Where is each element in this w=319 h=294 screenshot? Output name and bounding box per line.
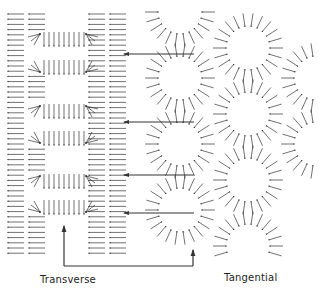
vector-mark <box>34 106 40 117</box>
vector-mark <box>146 68 159 72</box>
vector-mark <box>189 46 194 58</box>
vector-mark <box>234 68 239 80</box>
vector-mark <box>146 84 159 88</box>
transverse-vector-field <box>8 14 126 253</box>
vector-mark <box>262 197 271 207</box>
vector-mark <box>175 34 177 47</box>
vector-mark <box>34 201 40 212</box>
vector-mark <box>234 134 239 146</box>
vector-mark <box>175 232 177 245</box>
vector-mark <box>269 54 282 58</box>
vector-mark <box>257 68 262 80</box>
vector-mark <box>86 34 92 45</box>
vector-mark <box>189 164 194 176</box>
vector-mark <box>257 214 262 226</box>
vector-mark <box>146 200 159 204</box>
vector-mark <box>199 59 210 66</box>
vector-mark <box>311 43 313 56</box>
vector-mark <box>287 156 298 163</box>
vector-mark <box>293 52 302 62</box>
vector-mark <box>219 29 230 36</box>
vector-mark <box>189 98 194 110</box>
vector-mark <box>287 90 298 97</box>
vector-mark <box>201 18 214 22</box>
vector-mark <box>234 16 239 28</box>
vector-mark <box>157 227 166 237</box>
vector-mark <box>166 178 171 190</box>
tangential-label: Tangential <box>224 272 277 283</box>
vector-mark <box>151 191 162 198</box>
vector-mark <box>287 125 298 132</box>
vector-mark <box>257 16 262 28</box>
vector-mark <box>146 150 159 154</box>
vector-mark <box>157 52 166 62</box>
vector-mark <box>151 59 162 66</box>
vector-mark <box>225 197 234 207</box>
vector-mark <box>166 32 171 44</box>
vector-mark <box>269 170 282 174</box>
vector-mark <box>257 82 262 94</box>
vector-mark <box>282 134 295 138</box>
vector-mark <box>157 95 166 105</box>
vector-mark <box>146 18 159 22</box>
vector-mark <box>183 109 185 122</box>
vector-mark <box>262 154 271 164</box>
vector-mark <box>269 120 282 124</box>
vector-mark <box>214 186 227 190</box>
vector-mark <box>34 176 40 187</box>
correspondence-arrows <box>124 54 194 213</box>
vector-mark <box>234 200 239 212</box>
vector-mark <box>243 13 245 26</box>
vector-mark <box>311 109 313 122</box>
vector-mark <box>269 38 282 42</box>
vector-mark <box>282 150 295 154</box>
vector-mark <box>234 82 239 94</box>
tangential-vector-field <box>145 12 313 256</box>
vector-mark <box>151 90 162 97</box>
vector-mark <box>267 29 278 36</box>
vector-mark <box>214 54 227 58</box>
vector-mark <box>251 211 253 224</box>
vector-mark <box>214 104 227 108</box>
vector-mark <box>34 132 40 143</box>
vector-mark <box>199 90 210 97</box>
vector-mark <box>282 84 295 88</box>
vector-mark <box>234 148 239 160</box>
vector-mark <box>225 154 234 164</box>
vector-mark <box>267 95 278 102</box>
vector-mark <box>219 60 230 67</box>
vector-mark <box>199 191 210 198</box>
vector-mark <box>201 150 214 154</box>
vector-mark <box>302 46 307 58</box>
vector-mark <box>201 216 214 220</box>
vector-mark <box>151 156 162 163</box>
vector-mark <box>267 192 278 199</box>
vector-mark <box>194 52 203 62</box>
vector-mark <box>214 252 227 256</box>
vector-mark <box>219 192 230 199</box>
vector-mark <box>269 252 282 256</box>
vector-mark <box>157 161 166 171</box>
vector-mark <box>267 227 278 234</box>
vector-mark <box>257 134 262 146</box>
vector-mark <box>175 175 177 188</box>
vector-mark <box>262 131 271 141</box>
vector-mark <box>225 131 234 141</box>
vector-mark <box>287 59 298 66</box>
vector-mark <box>267 60 278 67</box>
vector-mark <box>243 145 245 158</box>
vector-mark <box>214 120 227 124</box>
vector-mark <box>225 88 234 98</box>
vector-mark <box>183 232 185 245</box>
vector-mark <box>262 88 271 98</box>
vector-mark <box>251 79 253 92</box>
vector-mark <box>166 46 171 58</box>
vector-mark <box>219 95 230 102</box>
pairing-bracket-arrow <box>64 226 193 266</box>
vector-mark <box>199 125 210 132</box>
vector-mark <box>151 222 162 229</box>
orientation-diagram <box>0 0 319 294</box>
vector-mark <box>201 84 214 88</box>
vector-mark <box>262 65 271 75</box>
vector-mark <box>257 148 262 160</box>
